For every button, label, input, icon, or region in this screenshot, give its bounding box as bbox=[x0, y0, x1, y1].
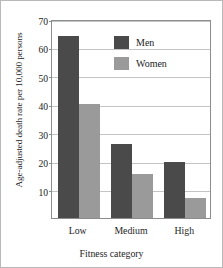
legend-item-men: Men bbox=[114, 36, 167, 49]
legend: Men Women bbox=[114, 36, 167, 70]
legend-label-women: Women bbox=[136, 59, 167, 69]
y-axis-tick-label: 60 bbox=[38, 44, 48, 55]
bar-low-men bbox=[58, 36, 79, 218]
plot-area: 10203040506070 Men Women bbox=[51, 20, 211, 219]
bar-high-men bbox=[164, 162, 185, 218]
legend-label-men: Men bbox=[136, 38, 154, 48]
y-axis-tick-label: 40 bbox=[38, 101, 48, 112]
y-axis-tick-mark bbox=[49, 163, 52, 164]
bar-high-women bbox=[185, 198, 206, 218]
bar-medium-women bbox=[132, 174, 153, 218]
legend-item-women: Women bbox=[114, 57, 167, 70]
x-axis-tick-label-high: High bbox=[175, 225, 195, 236]
y-axis-tick-mark bbox=[49, 49, 52, 50]
bar-medium-men bbox=[111, 144, 132, 218]
y-axis-tick-label: 20 bbox=[38, 158, 48, 169]
y-axis-tick-mark bbox=[49, 191, 52, 192]
x-axis-title: Fitness category bbox=[1, 248, 222, 259]
y-axis-tick-label: 30 bbox=[38, 129, 48, 140]
bar-low-women bbox=[79, 104, 100, 218]
y-axis-tick-label: 70 bbox=[38, 16, 48, 27]
y-axis-tick-label: 50 bbox=[38, 72, 48, 83]
y-axis-tick-mark bbox=[49, 106, 52, 107]
x-axis-tick-label-medium: Medium bbox=[114, 225, 147, 236]
y-axis-tick-mark bbox=[49, 134, 52, 135]
gridline bbox=[52, 21, 210, 22]
y-axis-tick-mark bbox=[49, 77, 52, 78]
y-axis-tick-mark bbox=[49, 21, 52, 22]
y-axis-tick-label: 10 bbox=[38, 186, 48, 197]
x-axis-tick-label-low: Low bbox=[69, 225, 87, 236]
legend-swatch-women bbox=[114, 57, 129, 70]
legend-swatch-men bbox=[114, 36, 129, 49]
y-axis-title: Age-adjusted death rate per 10,000 perso… bbox=[14, 10, 24, 210]
chart-figure: Age-adjusted death rate per 10,000 perso… bbox=[0, 0, 223, 268]
